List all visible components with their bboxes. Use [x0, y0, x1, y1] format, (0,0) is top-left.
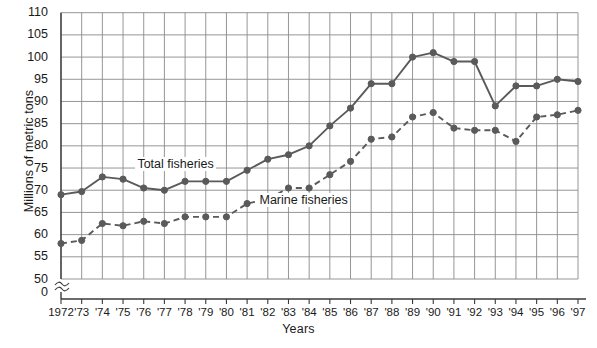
data-point-marker	[203, 214, 209, 220]
y-tick-label: 70	[8, 184, 48, 197]
data-point-marker	[409, 54, 415, 60]
data-point-marker	[161, 220, 167, 226]
data-point-marker	[79, 237, 85, 243]
y-tick-label: 105	[8, 28, 48, 41]
data-point-marker	[389, 81, 395, 87]
data-point-marker	[513, 83, 519, 89]
x-tick-label: '97	[565, 307, 591, 319]
fisheries-line-chart: Millions of metric tons Years 5055606570…	[0, 0, 597, 348]
axis-break-icon	[55, 282, 69, 286]
y-tick-label: 60	[8, 228, 48, 241]
data-point-marker	[141, 185, 147, 191]
data-point-marker	[368, 81, 374, 87]
data-point-marker	[285, 185, 291, 191]
data-point-marker	[161, 187, 167, 193]
data-point-marker	[492, 127, 498, 133]
y-tick-label: 95	[8, 73, 48, 86]
data-point-marker	[58, 240, 64, 246]
data-point-marker	[223, 214, 229, 220]
data-point-marker	[409, 114, 415, 120]
data-point-marker	[472, 58, 478, 64]
data-point-marker	[306, 143, 312, 149]
data-point-marker	[306, 185, 312, 191]
data-point-marker	[492, 103, 498, 109]
grid-lines	[61, 13, 578, 279]
data-point-marker	[58, 192, 64, 198]
data-point-marker	[327, 123, 333, 129]
data-point-marker	[451, 125, 457, 131]
data-point-marker	[182, 214, 188, 220]
data-point-marker	[430, 109, 436, 115]
data-point-marker	[554, 76, 560, 82]
data-point-marker	[554, 112, 560, 118]
y-tick-label: 100	[8, 51, 48, 64]
data-point-marker	[203, 178, 209, 184]
data-point-marker	[513, 138, 519, 144]
data-point-marker	[534, 114, 540, 120]
data-point-marker	[430, 50, 436, 56]
data-point-marker	[223, 178, 229, 184]
data-point-marker	[244, 167, 250, 173]
data-point-marker	[265, 156, 271, 162]
series-2	[58, 107, 581, 246]
y-tick-label: 90	[8, 95, 48, 108]
data-point-marker	[182, 178, 188, 184]
plot-area	[0, 0, 597, 348]
series-label-marine-fisheries: Marine fisheries	[258, 193, 350, 207]
data-point-marker	[79, 188, 85, 194]
series-line	[61, 110, 578, 243]
y-tick-label: 85	[8, 117, 48, 130]
y-tick-label: 55	[8, 250, 48, 263]
y-tick-label: 80	[8, 139, 48, 152]
y-tick-label: 50	[8, 273, 48, 286]
data-point-marker	[327, 172, 333, 178]
y-tick-label: 65	[8, 206, 48, 219]
data-point-marker	[575, 107, 581, 113]
y-tick-label: 110	[8, 6, 48, 19]
data-point-marker	[575, 78, 581, 84]
data-point-marker	[285, 152, 291, 158]
data-point-marker	[347, 105, 353, 111]
data-point-marker	[451, 58, 457, 64]
data-point-marker	[389, 134, 395, 140]
data-point-marker	[534, 83, 540, 89]
data-point-marker	[347, 158, 353, 164]
data-point-marker	[120, 176, 126, 182]
data-point-marker	[244, 200, 250, 206]
data-point-marker	[120, 223, 126, 229]
y-tick-label-zero: 0	[8, 286, 48, 299]
series-label-total-fisheries: Total fisheries	[135, 157, 215, 171]
y-tick-label: 75	[8, 162, 48, 175]
data-point-marker	[368, 136, 374, 142]
axis-break-icon	[55, 287, 69, 291]
data-point-marker	[99, 174, 105, 180]
data-point-marker	[99, 220, 105, 226]
data-point-marker	[141, 218, 147, 224]
data-point-marker	[472, 127, 478, 133]
